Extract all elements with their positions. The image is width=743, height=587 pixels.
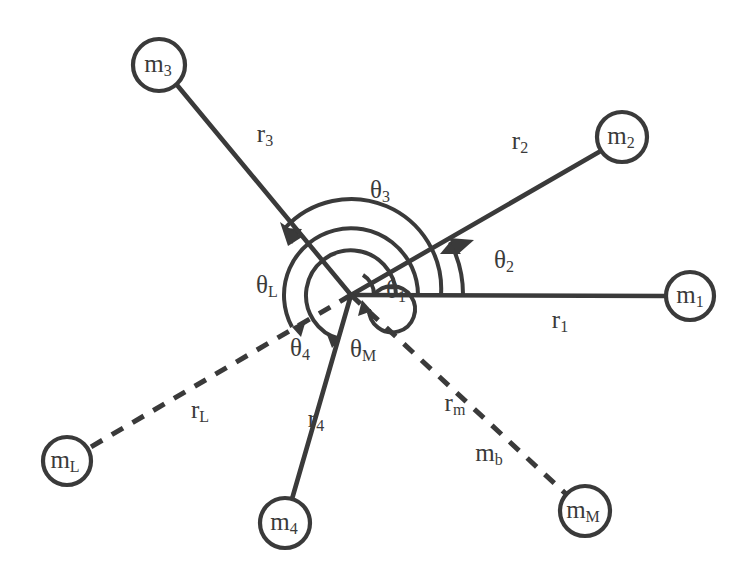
angle-label-theta4: θ4 (290, 334, 310, 363)
mass-polar-diagram: m1 m2 m3 m4 mL mM r1 r2 r3 r4 rL rm mb θ… (0, 0, 743, 587)
mass-label-mb: mb (475, 439, 502, 468)
angle-label-theta2: θ2 (494, 246, 514, 275)
distance-label-rL: rL (191, 396, 209, 425)
angle-label-theta1: θ1 (386, 276, 406, 305)
ray-r3 (177, 85, 351, 295)
distance-label-r1: r1 (552, 306, 568, 335)
angle-label-thetaL: θL (256, 271, 278, 300)
distance-label-r4: r4 (308, 405, 324, 434)
angle-label-thetaM: θM (350, 335, 376, 364)
angle-label-group: θ1 θ2 θ3 θ4 θL θM (256, 176, 514, 364)
ray-rm (351, 295, 566, 494)
distance-label-r2: r2 (512, 127, 528, 156)
angle-label-theta3: θ3 (370, 176, 390, 205)
diagram-canvas: m1 m2 m3 m4 mL mM r1 r2 r3 r4 rL rm mb θ… (0, 0, 743, 587)
ray-r2 (351, 152, 599, 295)
distance-label-rm: rm (445, 389, 466, 418)
distance-label-r3: r3 (257, 120, 273, 149)
